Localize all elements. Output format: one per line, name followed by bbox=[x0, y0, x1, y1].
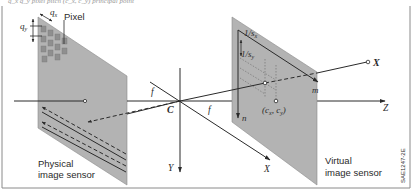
top-caption-fragment: q_x q_y pixel pitch (c_x, c_y) principal… bbox=[8, 0, 135, 5]
y-axis-label: Y bbox=[168, 163, 175, 173]
z-axis-label: Z bbox=[383, 103, 389, 113]
qy-label: qy bbox=[20, 21, 28, 32]
pixel-label: Pixel bbox=[64, 11, 85, 22]
projection-ray-to-world bbox=[317, 62, 367, 73]
world-point bbox=[366, 60, 370, 64]
physical-sensor-label-line1: Physical bbox=[38, 158, 73, 169]
focal-length-left-label: f bbox=[151, 87, 155, 97]
physical-principal-point bbox=[83, 99, 86, 102]
principal-point-label: (cx, cy) bbox=[262, 105, 286, 116]
camera-center-label: C bbox=[167, 104, 174, 115]
m-axis-label: m bbox=[312, 85, 319, 95]
focal-length-right-label: f bbox=[208, 105, 212, 115]
virtual-sensor-label-line2: image sensor bbox=[325, 167, 382, 178]
world-point-label: X bbox=[372, 57, 380, 68]
pinhole-camera-diagram: q_x q_y pixel pitch (c_x, c_y) principal… bbox=[0, 0, 413, 193]
one-over-sx-label: 1/sx bbox=[244, 28, 258, 39]
figure-id: SAE1247-2E bbox=[400, 148, 406, 183]
virtual-principal-point bbox=[274, 99, 278, 103]
virtual-sensor-label-line1: Virtual bbox=[325, 155, 352, 166]
physical-sensor-label-line2: image sensor bbox=[38, 169, 95, 180]
physical-image-sensor: qx qy Pixel Physical image sensor bbox=[20, 7, 127, 185]
virtual-image-point bbox=[263, 81, 267, 85]
n-axis-label: n bbox=[242, 113, 247, 123]
x-axis-label: X bbox=[263, 164, 271, 174]
qx-label: qx bbox=[50, 7, 58, 18]
